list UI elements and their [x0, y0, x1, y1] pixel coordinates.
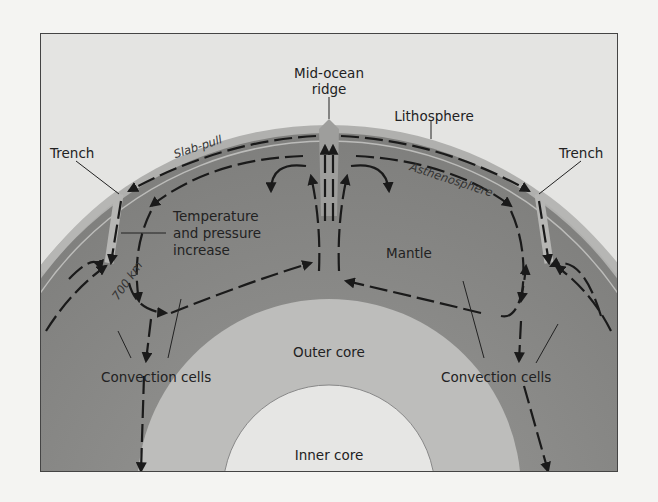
label-mid-ocean-ridge-1: Mid-ocean — [294, 65, 364, 81]
label-convection-cells-left: Convection cells — [101, 369, 211, 385]
label-trench-left: Trench — [49, 145, 94, 161]
label-temperature-3: increase — [173, 242, 230, 258]
label-lithosphere: Lithosphere — [394, 108, 473, 124]
label-convection-cells-right: Convection cells — [441, 369, 551, 385]
diagram-frame: Mid-ocean ridge Lithosphere Slab-pull Tr… — [40, 33, 618, 472]
label-temperature-1: Temperature — [172, 208, 259, 224]
label-mantle: Mantle — [386, 245, 432, 261]
label-mid-ocean-ridge-2: ridge — [312, 81, 347, 97]
label-temperature-2: and pressure — [173, 225, 261, 241]
earth-cross-section: Mid-ocean ridge Lithosphere Slab-pull Tr… — [41, 34, 618, 472]
label-outer-core: Outer core — [293, 344, 365, 360]
label-inner-core: Inner core — [295, 447, 363, 463]
label-trench-right: Trench — [558, 145, 603, 161]
mid-ocean-ridge — [319, 119, 339, 216]
